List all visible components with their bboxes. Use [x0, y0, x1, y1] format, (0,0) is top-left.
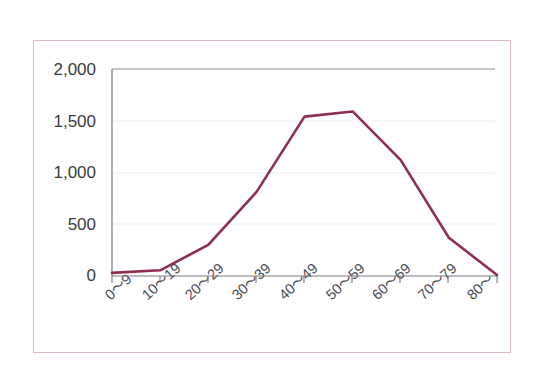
y-axis-label-500: 500	[24, 215, 96, 235]
y-axis-label-0: 0	[24, 266, 96, 286]
figure-caption	[36, 360, 316, 372]
y-axis-label-2000: 2,000	[24, 60, 96, 80]
chart-figure: 2,000 1,500 1,000 500 0 0〜9 10〜19 20〜29 …	[0, 0, 547, 373]
y-axis-label-1000: 1,000	[24, 163, 96, 183]
y-axis-label-1500: 1,500	[24, 112, 96, 132]
chart-frame	[33, 40, 511, 353]
